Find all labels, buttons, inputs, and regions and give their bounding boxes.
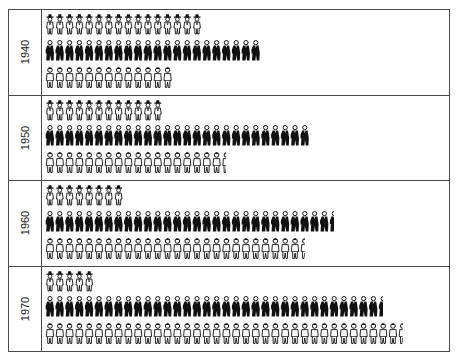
worker-row bbox=[45, 152, 226, 174]
panel-1960: 1960 bbox=[9, 181, 449, 267]
suit-figure-row bbox=[45, 40, 261, 62]
suit-figure-row bbox=[45, 125, 310, 147]
farmer-icon bbox=[45, 99, 163, 121]
farmer-row bbox=[45, 13, 202, 35]
farmer-row bbox=[45, 184, 123, 206]
worker-icon bbox=[45, 238, 305, 260]
year-label-cell: 1960 bbox=[9, 181, 42, 266]
panel-1950: 1950 bbox=[9, 96, 449, 182]
worker-row bbox=[45, 238, 305, 260]
suit-figure-row bbox=[45, 211, 334, 233]
suit-figure-icon bbox=[45, 296, 383, 318]
worker-icon bbox=[45, 152, 226, 174]
suit-figure-icon bbox=[45, 125, 310, 147]
year-label-cell: 1970 bbox=[9, 267, 42, 353]
pictograph-frame: 1940 bbox=[8, 9, 450, 352]
year-label: 1960 bbox=[19, 211, 31, 235]
suit-figure-icon bbox=[45, 40, 261, 62]
year-label: 1970 bbox=[19, 297, 31, 321]
worker-row bbox=[45, 323, 403, 345]
farmer-icon bbox=[45, 184, 123, 206]
farmer-row bbox=[45, 99, 163, 121]
farmer-icon bbox=[45, 270, 94, 292]
year-label-cell: 1950 bbox=[9, 96, 42, 181]
worker-icon bbox=[45, 323, 403, 345]
suit-figure-row bbox=[45, 296, 383, 318]
year-label-cell: 1940 bbox=[9, 10, 42, 95]
panel-1940: 1940 bbox=[9, 10, 449, 96]
year-label: 1940 bbox=[19, 40, 31, 64]
year-label: 1950 bbox=[19, 126, 31, 150]
suit-figure-icon bbox=[45, 211, 334, 233]
worker-row bbox=[45, 67, 172, 89]
panel-1970: 1970 bbox=[9, 267, 449, 353]
farmer-row bbox=[45, 270, 94, 292]
worker-icon bbox=[45, 67, 172, 89]
farmer-icon bbox=[45, 13, 202, 35]
